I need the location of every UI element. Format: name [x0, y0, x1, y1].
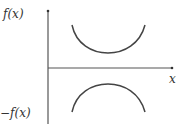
upper-curve: [72, 25, 145, 53]
y-axis-label-bottom: −f(x): [0, 107, 31, 119]
x-axis-arrow: [171, 67, 174, 70]
x-axis-label: x: [169, 73, 176, 85]
y-axis-arrow: [47, 10, 50, 13]
y-axis-label-top: f(x): [3, 8, 24, 20]
lower-curve: [72, 84, 145, 112]
